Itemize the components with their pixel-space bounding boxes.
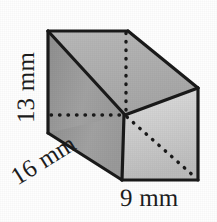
edge-front-inner-vertical (122, 115, 124, 180)
dimension-label-width: 9 mm (120, 186, 178, 211)
prism-figure: 13 mm 16 mm 9 mm (0, 0, 217, 222)
dimension-label-height: 13 mm (14, 52, 39, 123)
